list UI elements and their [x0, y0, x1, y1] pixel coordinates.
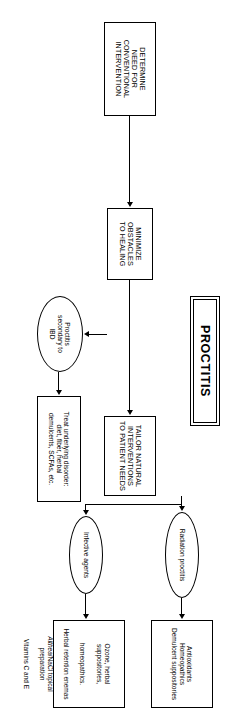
treatment-infective-line-1: Ozone, herbal suppositories, [95, 625, 111, 703]
althea-italic-term: Althea [47, 636, 54, 654]
arrowhead-ibd-to-treatment [56, 390, 62, 395]
treatment-infective-line-3: Herbal retention enemas [62, 625, 70, 703]
figure-title: PROCTITIS [193, 299, 217, 423]
figure-title-plate: PROCTITIS [190, 296, 220, 426]
arrowhead-infective-to-treatment [83, 614, 89, 619]
arrowhead-minimize-to-ibd [84, 331, 89, 337]
figure-rotation-wrapper: PROCTITIS DETERMINE NEED FOR CONVENTIONA… [0, 0, 233, 722]
treatment-infective-line-2: homeopathics. [78, 625, 86, 703]
connector-radiation-to-treatment [181, 598, 182, 614]
treatment-infective-line-4: Althea/NaCl topical preparation [38, 625, 54, 703]
connector-minimize-to-ibd [89, 334, 107, 335]
condition-infective-agents[interactable]: Infective agents [69, 516, 103, 594]
treatment-radiation-proctitis[interactable]: Antioxidants Homeopathics Demulcent supp… [151, 620, 213, 708]
connector-determine-to-minimize [129, 116, 130, 202]
condition-radiation-proctitis[interactable]: Radiation proctitis [165, 512, 199, 598]
stage-determine-need[interactable]: DETERMINE NEED FOR CONVENTIONAL INTERVEN… [104, 22, 156, 116]
connector-minimize-to-tailor [129, 280, 130, 410]
arrowhead-tailor-to-infective [83, 510, 89, 515]
flowchart-canvas: PROCTITIS DETERMINE NEED FOR CONVENTIONA… [0, 0, 233, 722]
arrowhead-minimize-to-tailor [127, 410, 133, 415]
connector-tailor-branch-vertical [86, 504, 182, 505]
stage-minimize-obstacles[interactable]: MINIMIZE OBSTACLES TO HEALING [107, 208, 153, 280]
connector-infective-to-treatment [85, 594, 86, 614]
althea-line-rest: /NaCl topical preparation [39, 648, 54, 692]
treatment-infective-line-5: Vitamins C and E [22, 625, 30, 703]
condition-proctitis-secondary-ibd[interactable]: Proctitis secondary to IBD [37, 296, 83, 372]
stage-tailor-interventions[interactable]: TAILOR NATURAL INTERVENTIONS TO PATIENT … [104, 416, 156, 496]
arrowhead-radiation-to-treatment [179, 614, 185, 619]
arrowhead-determine-to-minimize [127, 202, 133, 207]
connector-ibd-to-treatment [58, 372, 59, 390]
arrowhead-tailor-to-radiation [179, 506, 185, 511]
treatment-infective-agents[interactable]: Ozone, herbal suppositories, homeopathic… [53, 620, 125, 708]
treatment-underlying-disorder[interactable]: Treat underlying disorder: diet, fiber, … [37, 396, 81, 502]
